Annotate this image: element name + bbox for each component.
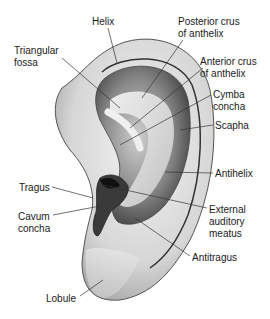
label-anterior-crus: Anterior crus of anthelix	[200, 56, 257, 80]
label-antihelix: Antihelix	[215, 168, 253, 180]
label-cymba-concha: Cymba concha	[213, 89, 245, 113]
label-helix: Helix	[92, 16, 114, 28]
label-scapha: Scapha	[215, 120, 249, 132]
label-antitragus: Antitragus	[192, 252, 237, 264]
label-triangular-fossa: Triangular fossa	[14, 45, 59, 69]
label-cavum-concha: Cavum concha	[18, 211, 50, 235]
label-posterior-crus: Posterior crus of anthelix	[178, 16, 240, 40]
label-external-auditory-meatus: External auditory meatus	[209, 204, 246, 240]
label-lobule: Lobule	[46, 293, 76, 305]
ear-diagram: Helix Triangular fossa Posterior crus of…	[0, 0, 270, 319]
label-tragus: Tragus	[19, 182, 50, 194]
